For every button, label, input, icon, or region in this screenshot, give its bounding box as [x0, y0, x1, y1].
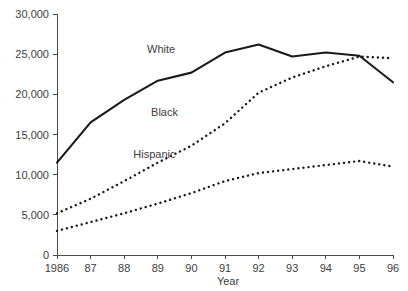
x-tick-label: 87	[84, 262, 96, 274]
x-tick-label: 91	[219, 262, 231, 274]
y-tick-label: 20,000	[15, 88, 49, 100]
chart-canvas: 05,00010,00015,00020,00025,00030,000 198…	[0, 0, 408, 291]
y-tick-label: 0	[43, 249, 49, 261]
x-tick-label: 94	[320, 262, 332, 274]
y-tick-label: 25,000	[15, 48, 49, 60]
y-tick-label: 30,000	[15, 8, 49, 20]
x-tick-label: 90	[185, 262, 197, 274]
x-tick-label: 89	[152, 262, 164, 274]
series-label-hispanic: Hispanic	[133, 148, 176, 160]
x-tick-label: 88	[118, 262, 130, 274]
x-tick-label: 1986	[45, 262, 69, 274]
x-tick-label: 95	[353, 262, 365, 274]
x-tick-label: 96	[387, 262, 399, 274]
x-axis-title: Year	[217, 275, 240, 287]
y-tick-label: 5,000	[21, 209, 49, 221]
y-tick-label: 10,000	[15, 169, 49, 181]
chart-background	[0, 0, 408, 291]
series-label-black: Black	[151, 106, 178, 118]
y-tick-label: 15,000	[15, 129, 49, 141]
x-tick-label: 92	[252, 262, 264, 274]
series-label-white: White	[147, 43, 175, 55]
line-chart: 05,00010,00015,00020,00025,00030,000 198…	[0, 0, 408, 291]
x-tick-label: 93	[286, 262, 298, 274]
